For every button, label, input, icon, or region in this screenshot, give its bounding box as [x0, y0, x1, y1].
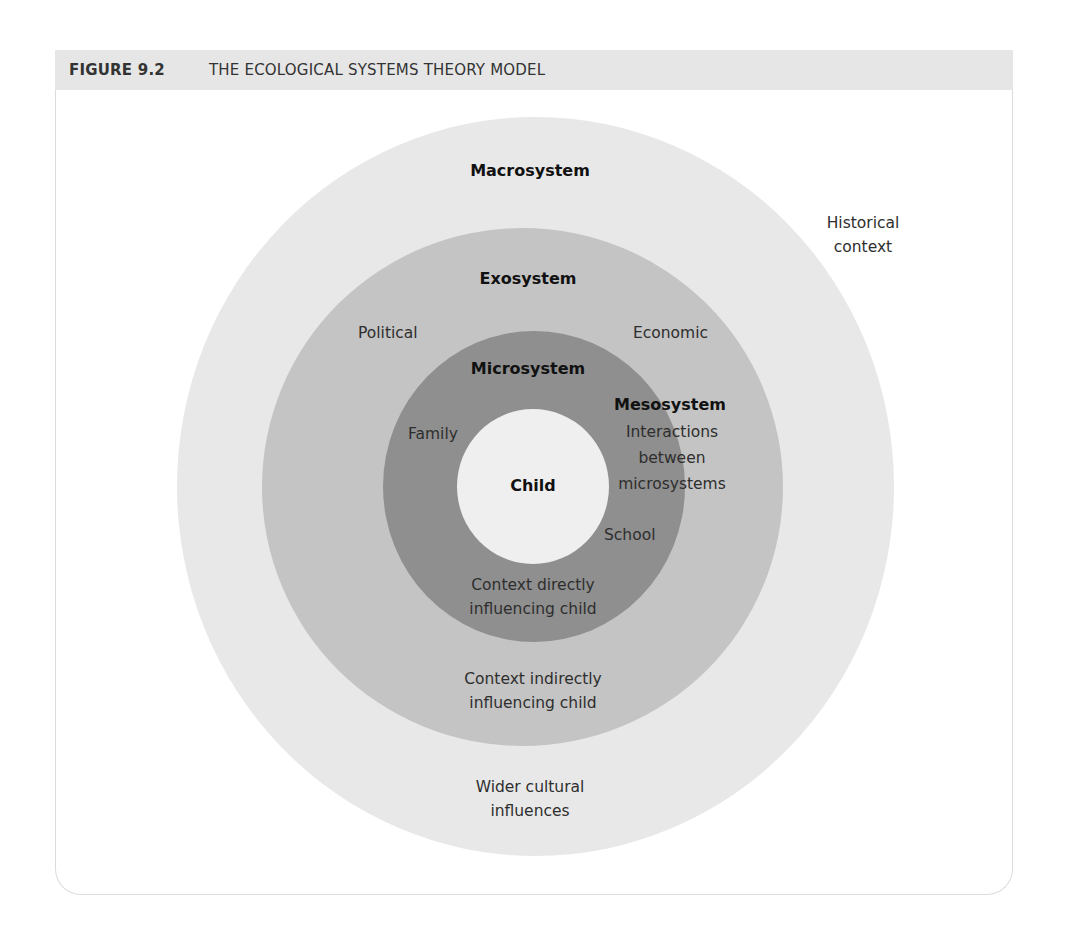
microsystem-school-label: School	[604, 523, 655, 547]
historical-context-line1: Historical	[808, 211, 918, 235]
figure-title: THE ECOLOGICAL SYSTEMS THEORY MODEL	[209, 61, 545, 79]
exosystem-desc-line1: Context indirectly	[433, 667, 633, 691]
exosystem-description: Context indirectly influencing child	[433, 667, 633, 715]
microsystem-desc-line1: Context directly	[433, 573, 633, 597]
macrosystem-desc-line1: Wider cultural	[430, 775, 630, 799]
child-label: Child	[483, 474, 583, 498]
exosystem-title: Exosystem	[428, 267, 628, 291]
mesosystem-desc-line3: microsystems	[606, 471, 738, 497]
mesosystem-desc-line1: Interactions	[606, 419, 738, 445]
macrosystem-description: Wider cultural influences	[430, 775, 630, 823]
historical-context-label: Historical context	[808, 211, 918, 259]
microsystem-family-label: Family	[408, 422, 458, 446]
microsystem-title: Microsystem	[428, 357, 628, 381]
figure-header: FIGURE 9.2 THE ECOLOGICAL SYSTEMS THEORY…	[55, 50, 1013, 90]
exosystem-political-label: Political	[358, 321, 418, 345]
mesosystem-desc-line2: between	[606, 445, 738, 471]
exosystem-economic-label: Economic	[633, 321, 708, 345]
microsystem-description: Context directly influencing child	[433, 573, 633, 621]
macrosystem-desc-line2: influences	[430, 799, 630, 823]
figure-number: FIGURE 9.2	[69, 61, 209, 79]
historical-context-line2: context	[808, 235, 918, 259]
mesosystem-title: Mesosystem	[605, 393, 735, 417]
exosystem-desc-line2: influencing child	[433, 691, 633, 715]
mesosystem-description: Interactions between microsystems	[606, 419, 738, 497]
macrosystem-title: Macrosystem	[430, 159, 630, 183]
microsystem-desc-line2: influencing child	[433, 597, 633, 621]
